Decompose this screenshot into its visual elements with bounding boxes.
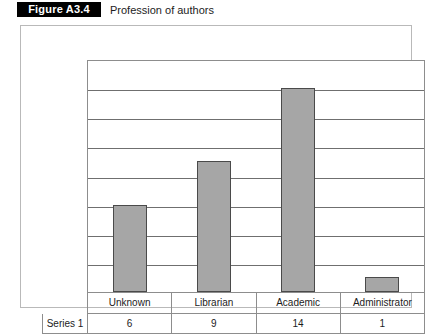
- bar-unknown[interactable]: [113, 205, 147, 292]
- series-value: 14: [257, 314, 341, 333]
- category-label: Administrator: [341, 293, 424, 313]
- category-label: Academic: [257, 293, 341, 313]
- bar-column: [172, 61, 256, 292]
- figure-caption: Figure A3.4 Profession of authors: [0, 0, 422, 22]
- bar-column: [256, 61, 340, 292]
- series-label-cell: Series 1: [43, 314, 88, 333]
- series-value-cells: 69141: [88, 314, 424, 333]
- chart-frame: UnknownLibrarianAcademicAdministrator Se…: [20, 25, 412, 308]
- bar-column: [340, 61, 424, 292]
- category-header-row: UnknownLibrarianAcademicAdministrator: [87, 293, 425, 314]
- series-value: 1: [341, 314, 424, 333]
- category-label: Unknown: [88, 293, 172, 313]
- bar-series: [88, 61, 424, 292]
- category-label: Librarian: [172, 293, 256, 313]
- series-value: 9: [172, 314, 256, 333]
- bar-column: [88, 61, 172, 292]
- bar-administrator[interactable]: [365, 277, 399, 292]
- figure-title: Profession of authors: [110, 3, 214, 17]
- figure-number-badge: Figure A3.4: [17, 2, 101, 17]
- plot-area: [87, 60, 425, 293]
- bar-academic[interactable]: [281, 88, 315, 292]
- series-data-row: Series 1 69141: [42, 314, 425, 334]
- bar-librarian[interactable]: [197, 161, 231, 292]
- series-value: 6: [88, 314, 172, 333]
